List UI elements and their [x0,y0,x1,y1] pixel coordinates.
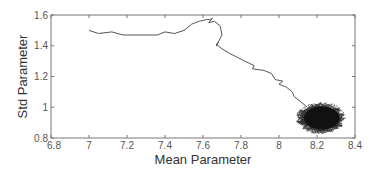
y-tick-label: 1.6 [34,10,48,21]
x-tick-label: 8.4 [348,140,362,151]
x-tick-label: 7.4 [158,140,172,151]
y-tick-label: 1.2 [34,71,48,82]
y-tick-label: 1 [42,102,48,113]
x-axis-label: Mean Parameter [155,152,252,167]
y-tick-label: 1.4 [34,40,48,51]
y-tick-label: 0.8 [34,133,48,144]
y-axis-label: Std Parameter [15,34,30,118]
x-tick-label: 7 [86,140,92,151]
x-tick-label: 7.2 [120,140,134,151]
x-tick-label: 8 [276,140,282,151]
x-tick-label: 6.8 [47,140,61,151]
x-tick-label: 7.6 [196,140,210,151]
chart: 6.877.27.47.67.888.28.4 0.811.21.41.6 Me… [0,0,378,169]
x-tick-label: 7.8 [234,140,248,151]
x-tick-label: 8.2 [310,140,324,151]
